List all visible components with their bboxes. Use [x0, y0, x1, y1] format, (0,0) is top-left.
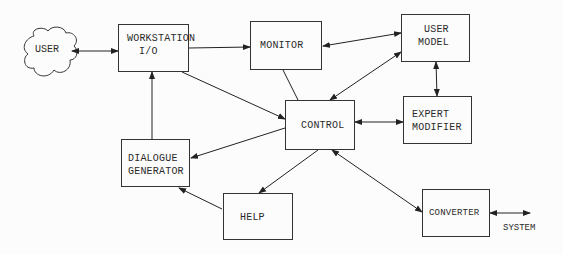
- expert-line1: EXPERT: [412, 108, 449, 121]
- arrow-control-converter: [332, 150, 422, 212]
- help-node: HELP: [223, 193, 293, 240]
- system-label: SYSTEM: [503, 223, 535, 233]
- control-node: CONTROL: [285, 100, 355, 150]
- arrow-control-dialogue: [191, 128, 285, 158]
- converter-node: CONVERTER: [422, 189, 490, 237]
- arrow-control-usermodel: [330, 52, 401, 100]
- control-label: CONTROL: [301, 119, 344, 132]
- arrow-help-dialogue: [179, 188, 222, 209]
- converter-label: CONVERTER: [429, 207, 479, 220]
- expert-line2: MODIFIER: [412, 121, 462, 134]
- user-model-line1: USER: [424, 23, 449, 36]
- arrow-workstation-control: [182, 72, 285, 119]
- arrow-usermodel-expert: [436, 62, 437, 96]
- monitor-node: MONITOR: [250, 21, 322, 70]
- user-node-label: USER: [35, 44, 59, 55]
- workstation-io-node: WORKSTATION I/O: [118, 24, 189, 72]
- dialogue-generator-node: DIALOGUE GENERATOR: [121, 139, 190, 187]
- expert-modifier-node: EXPERT MODIFIER: [403, 96, 472, 144]
- arrow-control-help: [259, 150, 318, 193]
- line-monitor-control: [283, 70, 298, 100]
- dialogue-line2: GENERATOR: [128, 165, 184, 178]
- monitor-label: MONITOR: [260, 39, 303, 52]
- user-model-node: USER MODEL: [401, 14, 470, 62]
- arrow-monitor-usermodel: [323, 33, 401, 46]
- user-model-line2: MODEL: [418, 36, 449, 49]
- workstation-line1: WORKSTATION: [127, 32, 195, 45]
- workstation-line2: I/O: [139, 45, 158, 58]
- help-label: HELP: [240, 211, 265, 224]
- dialogue-line1: DIALOGUE: [128, 152, 178, 165]
- arrow-workstation-monitor: [189, 47, 250, 48]
